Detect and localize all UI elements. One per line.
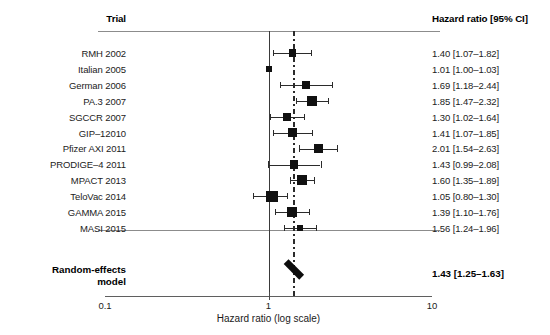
confidence-interval-cap [312,130,313,136]
confidence-interval-cap [309,209,310,215]
x-axis-tick-label: 0.1 [83,300,127,311]
study-label: PRODIGE–4 2011 [0,159,126,170]
summary-label: Random-effects model [0,264,126,287]
study-hazard-ratio-value: 1.60 [1.35–1.89] [432,175,550,186]
study-label: MPACT 2013 [0,175,126,186]
study-effect-marker [289,49,297,57]
study-effect-marker [314,144,323,153]
study-effect-marker [266,66,272,72]
study-hazard-ratio-value: 1.85 [1.47–2.32] [432,96,550,107]
study-hazard-ratio-value: 1.40 [1.07–1.82] [432,48,550,59]
column-header-trial: Trial [0,13,126,24]
study-label: German 2006 [0,80,126,91]
x-axis-tick [269,292,270,300]
x-axis-title: Hazard ratio (log scale) [105,313,432,324]
confidence-interval-cap [304,114,305,120]
study-label: GIP–12010 [0,128,126,139]
study-hazard-ratio-value: 1.01 [1.00–1.03] [432,64,550,75]
confidence-interval-cap [270,114,271,120]
study-effect-marker [283,113,291,121]
column-header-hazard-ratio: Hazard ratio [95% CI] [432,13,550,24]
confidence-interval-cap [280,82,281,88]
study-label: RMH 2002 [0,48,126,59]
study-hazard-ratio-value: 2.01 [1.54–2.63] [432,143,550,154]
confidence-interval-cap [253,193,254,199]
study-hazard-ratio-value: 1.41 [1.07–1.85] [432,128,550,139]
study-effect-marker [266,191,277,202]
confidence-interval-cap [273,130,274,136]
summary-label-line2: model [0,276,126,288]
study-label: Italian 2005 [0,64,126,75]
confidence-interval-cap [337,145,338,151]
study-effect-marker [290,160,299,169]
confidence-interval-cap [314,177,315,183]
confidence-interval-cap [296,98,297,104]
study-hazard-ratio-value: 1.69 [1.18–2.44] [432,80,550,91]
x-axis-tick-label: 1 [247,300,291,311]
confidence-interval-cap [287,193,288,199]
summary-hazard-ratio-value: 1.43 [1.25–1.63] [432,268,504,279]
study-effect-marker [302,81,310,89]
study-hazard-ratio-value: 1.43 [0.99–2.08] [432,159,550,170]
study-hazard-ratio-value: 1.39 [1.10–1.76] [432,207,550,218]
confidence-interval-cap [275,209,276,215]
study-hazard-ratio-value: 1.30 [1.02–1.64] [432,112,550,123]
study-effect-marker [287,207,296,216]
confidence-interval-cap [321,161,322,167]
x-axis-tick-label: 10 [410,300,454,311]
confidence-interval-cap [328,98,329,104]
confidence-interval-cap [316,225,317,231]
confidence-interval-cap [273,50,274,56]
study-effect-marker [297,175,307,185]
study-effect-marker [288,128,297,137]
study-label: MASI 2015 [0,223,126,234]
summary-label-line1: Random-effects [0,264,126,276]
study-label: Pfizer AXI 2011 [0,143,126,154]
study-hazard-ratio-value: 1.56 [1.24–1.96] [432,223,550,234]
study-label: SGCCR 2007 [0,112,126,123]
study-label: GAMMA 2015 [0,207,126,218]
study-label: PA.3 2007 [0,96,126,107]
confidence-interval-cap [268,161,269,167]
confidence-interval-cap [311,50,312,56]
study-hazard-ratio-value: 1.05 [0.80–1.30] [432,191,550,202]
forest-plot-figure: Trial Hazard ratio [95% CI] RMH 20021.40… [0,0,550,335]
confidence-interval-cap [299,145,300,151]
confidence-interval-cap [290,177,291,183]
study-label: TeloVac 2014 [0,191,126,202]
study-effect-marker [297,225,303,231]
confidence-interval-cap [284,225,285,231]
confidence-interval-cap [332,82,333,88]
study-effect-marker [307,96,317,106]
